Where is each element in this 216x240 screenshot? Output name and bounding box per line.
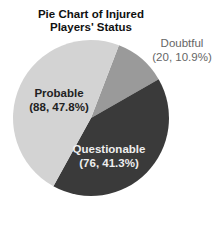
- questionable-name: Questionable: [64, 142, 154, 156]
- slice-label-questionable: Questionable (76, 41.3%): [64, 142, 154, 170]
- slice-label-probable: Probable (88, 47.8%): [20, 86, 98, 114]
- doubtful-detail: (20, 10.9%): [148, 50, 216, 64]
- doubtful-name: Doubtful: [148, 36, 216, 50]
- pie-slices: [13, 40, 169, 196]
- probable-detail: (88, 47.8%): [20, 100, 98, 114]
- probable-name: Probable: [20, 86, 98, 100]
- questionable-detail: (76, 41.3%): [64, 156, 154, 170]
- slice-label-doubtful: Doubtful (20, 10.9%): [148, 36, 216, 64]
